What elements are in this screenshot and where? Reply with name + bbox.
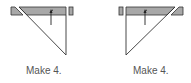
left-caption: Make 4.	[26, 65, 62, 76]
right-fold-figure	[119, 7, 183, 55]
left-fold-figure	[11, 7, 73, 55]
right-caption: Make 4.	[133, 65, 169, 76]
right-end-tab	[119, 7, 123, 15]
left-end-tab	[69, 7, 73, 15]
